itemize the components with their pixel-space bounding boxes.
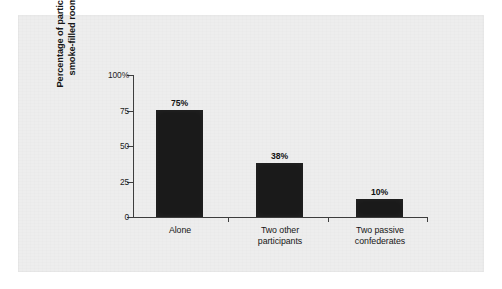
category-label-two-other-participants-line-2: participants — [239, 236, 321, 247]
y-tick-label-25: 25 — [120, 177, 129, 187]
category-label-alone-line-1: Alone — [139, 225, 221, 236]
x-separator-tick-3 — [427, 218, 428, 222]
figure-root: Percentage of participants who left smok… — [0, 0, 502, 289]
category-label-alone: Alone — [139, 225, 221, 236]
y-axis-line — [133, 75, 134, 218]
bar-value-two-passive-confederates: 10% — [371, 187, 388, 197]
bar-value-alone: 75% — [171, 98, 188, 108]
bar-two-other-participants[interactable]: 38% — [256, 163, 303, 217]
y-tick-label-50: 50 — [120, 141, 129, 151]
y-tick-label-100: 100% — [108, 70, 129, 80]
y-tick-label-75: 75 — [120, 106, 129, 116]
x-axis-line — [133, 217, 428, 218]
y-tick-label-0: 0 — [124, 212, 129, 222]
plot-area: 0 25 50 75 100% 75% 38% 10% — [133, 75, 428, 217]
category-label-two-passive-confederates-line-2: confederates — [339, 236, 421, 247]
bar-two-passive-confederates[interactable]: 10% — [356, 199, 403, 217]
x-separator-tick-2 — [328, 218, 329, 222]
category-label-two-passive-confederates: Two passive confederates — [339, 225, 421, 247]
category-label-two-other-participants-line-1: Two other — [239, 225, 321, 236]
x-separator-tick-1 — [228, 218, 229, 222]
bar-alone[interactable]: 75% — [156, 110, 203, 217]
bar-value-two-other-participants: 38% — [271, 151, 288, 161]
y-axis-title-line-1: Percentage of participants who left — [55, 0, 67, 92]
category-label-two-other-participants: Two other participants — [239, 225, 321, 247]
category-label-two-passive-confederates-line-1: Two passive — [339, 225, 421, 236]
y-axis-title-line-2: smoke-filled room to get help — [67, 0, 79, 92]
y-axis-title: Percentage of participants who left smok… — [55, 0, 85, 92]
